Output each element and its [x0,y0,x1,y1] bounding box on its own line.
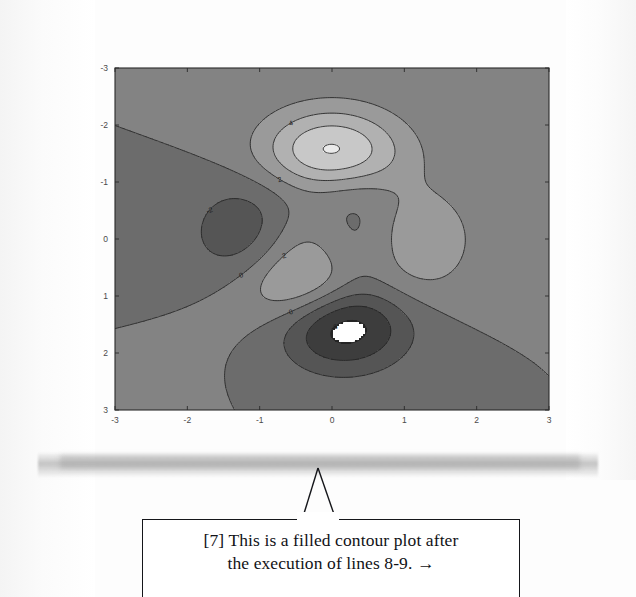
paper-edge-right [566,0,636,480]
x-tick-label: -2 [184,415,192,425]
y-tick-label: -2 [100,120,108,130]
contour-plot: -6-200224 -3-2-10123 3210-1-2-3 [70,32,570,450]
y-tick-label: 0 [103,234,108,244]
x-tick-label: 2 [474,415,479,425]
callout-line-2: the execution of lines 8-9. → [157,552,505,575]
x-tick-label: -1 [256,415,264,425]
scan-shadow-band [38,452,598,478]
y-tick-label: -3 [100,63,108,73]
scanned-page: -6-200224 -3-2-10123 3210-1-2-3 [7] This… [0,0,636,597]
y-tick-label: 2 [103,348,108,358]
filled-contour-figure: -6-200224 -3-2-10123 3210-1-2-3 [70,32,570,450]
scan-shadow-core [60,455,580,469]
y-tick-label: 3 [103,405,108,415]
x-tick-label: 3 [547,415,552,425]
callout-line-1: [7] This is a filled contour plot after [157,529,505,552]
y-tick-label: -1 [100,177,108,187]
callout-leader-lines [258,466,378,522]
x-tick-label: 0 [330,415,335,425]
x-tick-label: -3 [111,415,119,425]
y-axis-tick-labels: 3210-1-2-3 [100,63,108,415]
x-tick-label: 1 [402,415,407,425]
x-axis-tick-labels: -3-2-10123 [111,415,551,425]
callout-text: [7] This is a filled contour plot after … [143,520,519,576]
callout-box: [7] This is a filled contour plot after … [142,519,520,597]
y-tick-label: 1 [103,291,108,301]
